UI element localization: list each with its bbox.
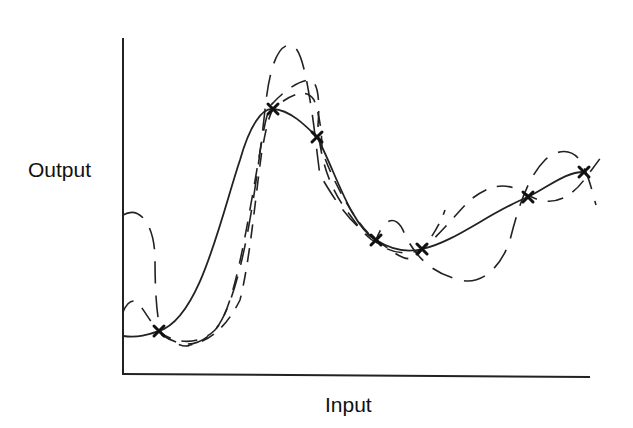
diagram-canvas: Output Input bbox=[0, 0, 633, 428]
y-axis-label: Output bbox=[28, 158, 91, 182]
x-axis-label: Input bbox=[325, 393, 372, 417]
x-mark-icon bbox=[312, 132, 322, 142]
x-mark-icon bbox=[154, 326, 164, 336]
dashed-sample-curve-3 bbox=[159, 93, 445, 346]
dashed-sample-curve-2 bbox=[123, 80, 605, 341]
plot-area bbox=[0, 0, 633, 428]
x-axis bbox=[122, 374, 590, 377]
observed-point-markers bbox=[154, 104, 589, 336]
